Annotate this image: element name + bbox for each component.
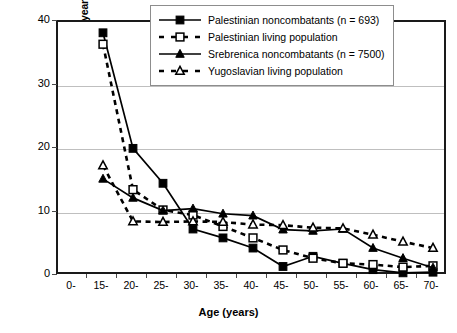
y-tick-label-40: 40 [24, 13, 50, 25]
y-tick-label-20: 20 [24, 140, 50, 152]
data-point-s2-c1 [99, 174, 107, 182]
data-point-s3-c3 [159, 217, 167, 225]
x-tick-label-4: 30- [176, 279, 206, 291]
x-tick-label-7: 45- [266, 279, 296, 291]
x-axis-title: Age (years) [0, 306, 457, 318]
data-point-s0-c7 [279, 263, 287, 271]
x-tick-label-9: 55- [326, 279, 356, 291]
data-point-s0-c5 [219, 234, 227, 242]
y-tick-label-30: 30 [24, 77, 50, 89]
y-tick-label-10: 10 [24, 204, 50, 216]
x-tick-mark-6 [236, 274, 237, 278]
y-tick-mark-10 [52, 211, 57, 212]
legend-item-2: Srebrenica noncombatants (n = 7500) [157, 45, 385, 62]
legend-key-3 [157, 64, 203, 78]
x-tick-mark-10 [356, 274, 357, 278]
legend-item-3: Yugoslavian living population [157, 62, 385, 79]
y-tick-mark-20 [52, 147, 57, 148]
x-tick-label-2: 20- [116, 279, 146, 291]
data-point-s3-c1 [99, 161, 107, 169]
x-tick-label-12: 70- [416, 279, 446, 291]
chart-figure: Percentage of population (>10 years) 010… [0, 0, 457, 333]
x-tick-mark-7 [266, 274, 267, 278]
data-point-s2-c10 [369, 243, 377, 251]
legend-label-2: Srebrenica noncombatants (n = 7500) [208, 47, 385, 61]
chart-legend: Palestinian noncombatants (n = 693)Pales… [150, 5, 394, 86]
data-point-s3-c8 [309, 223, 317, 231]
x-tick-mark-1 [86, 274, 87, 278]
x-tick-label-0: 0- [56, 279, 86, 291]
data-point-s1-c9 [339, 259, 347, 267]
x-tick-mark-12 [416, 274, 417, 278]
x-tick-label-8: 50- [296, 279, 326, 291]
data-point-s0-c6 [249, 244, 257, 252]
x-tick-label-1: 15- [86, 279, 116, 291]
legend-label-3: Yugoslavian living population [208, 64, 343, 78]
x-tick-label-11: 65- [386, 279, 416, 291]
y-tick-mark-0 [52, 274, 57, 275]
x-tick-mark-3 [146, 274, 147, 278]
data-point-s0-c2 [129, 144, 137, 152]
y-tick-mark-40 [52, 20, 57, 21]
data-point-s0-c3 [159, 179, 167, 187]
series-line-2 [103, 179, 433, 268]
x-tick-mark-4 [176, 274, 177, 278]
data-point-s3-c11 [399, 237, 407, 245]
legend-item-0: Palestinian noncombatants (n = 693) [157, 11, 385, 28]
data-point-s0-c4 [189, 225, 197, 233]
x-tick-label-5: 35- [206, 279, 236, 291]
data-point-s0-c1 [99, 29, 107, 37]
legend-item-1: Palestinian living population [157, 28, 385, 45]
data-point-s3-c10 [369, 230, 377, 238]
x-tick-mark-8 [296, 274, 297, 278]
data-point-s1-c10 [369, 261, 377, 269]
data-point-s1-c7 [279, 246, 287, 254]
data-point-s2-c2 [129, 193, 137, 201]
legend-key-1 [157, 30, 203, 44]
x-tick-mark-2 [116, 274, 117, 278]
x-tick-mark-5 [206, 274, 207, 278]
legend-label-1: Palestinian living population [208, 30, 338, 44]
legend-key-0 [157, 13, 203, 27]
data-point-s3-c12 [429, 243, 437, 251]
data-point-s1-c11 [399, 263, 407, 271]
x-tick-label-10: 60- [356, 279, 386, 291]
data-point-s1-c6 [249, 234, 257, 242]
data-point-s1-c1 [99, 40, 107, 48]
legend-key-2 [157, 47, 203, 61]
y-tick-mark-30 [52, 84, 57, 85]
data-point-s3-c9 [339, 224, 347, 232]
series-3 [99, 161, 437, 251]
x-tick-mark-9 [326, 274, 327, 278]
y-tick-label-0: 0 [24, 267, 50, 279]
legend-label-0: Palestinian noncombatants (n = 693) [208, 13, 379, 27]
x-tick-mark-11 [386, 274, 387, 278]
data-point-s3-c6 [249, 220, 257, 228]
x-tick-label-3: 25- [146, 279, 176, 291]
x-tick-label-6: 40- [236, 279, 266, 291]
data-point-s3-c7 [279, 221, 287, 229]
data-point-s3-c5 [219, 217, 227, 225]
data-point-s1-c8 [309, 254, 317, 262]
